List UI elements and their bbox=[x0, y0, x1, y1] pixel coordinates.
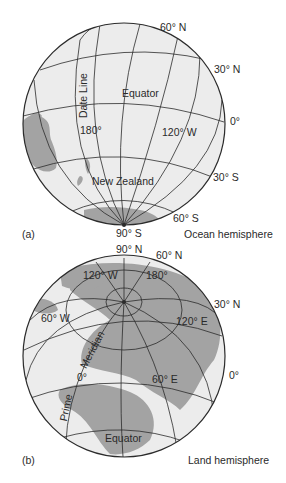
label-60s-a: 60° S bbox=[173, 213, 199, 224]
label-60e-b: 60° E bbox=[152, 374, 178, 385]
label-equator-a: Equator bbox=[122, 88, 159, 99]
label-120w-a: 120° W bbox=[162, 127, 197, 138]
panel-a-letter: (a) bbox=[22, 229, 35, 240]
label-new-zealand: New Zealand bbox=[92, 176, 154, 187]
label-30s-a: 30° S bbox=[213, 172, 239, 183]
panel-b-letter: (b) bbox=[22, 455, 35, 466]
label-30n-a: 30° N bbox=[214, 64, 240, 75]
label-equator-b: Equator bbox=[105, 433, 142, 444]
label-60n-b: 60° N bbox=[156, 250, 182, 261]
label-120w-b: 120° W bbox=[83, 270, 118, 281]
label-0-lon-b: 0° bbox=[77, 372, 87, 383]
label-120e-b: 120° E bbox=[176, 316, 208, 327]
label-0-lat-b: 0° bbox=[229, 370, 239, 381]
label-90s-a: 90° S bbox=[116, 228, 142, 239]
label-60w-b: 60° W bbox=[41, 313, 70, 324]
label-90n-b: 90° N bbox=[116, 244, 142, 255]
ocean-hemisphere-globe bbox=[0, 0, 286, 483]
panel-a-caption: Ocean hemisphere bbox=[184, 229, 273, 240]
label-30n-b: 30° N bbox=[214, 299, 240, 310]
label-0-a: 0° bbox=[230, 116, 240, 127]
label-date-line: Date Line bbox=[78, 73, 89, 118]
panel-b-caption: Land hemisphere bbox=[188, 455, 269, 466]
globe-a-body bbox=[20, 20, 230, 230]
label-180-a: 180° bbox=[80, 125, 102, 136]
label-60n-a: 60° N bbox=[160, 22, 186, 33]
label-180-b: 180° bbox=[146, 270, 168, 281]
